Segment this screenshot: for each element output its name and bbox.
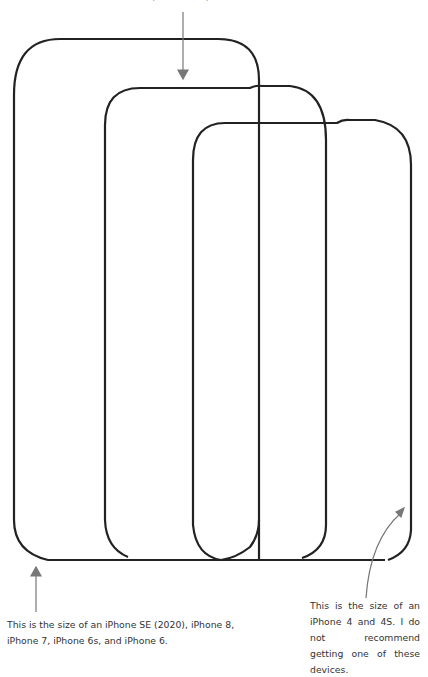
top-arrow-head: [178, 70, 188, 79]
caption-iphone-se: This is the size of an iPhone SE (2020),…: [7, 617, 247, 649]
caption-iphone-4: This is the size of an iPhone 4 and 4S. …: [310, 598, 420, 677]
large-phone-outline: [14, 39, 385, 560]
right-arrow-head: [396, 508, 404, 517]
medium-phone-outline: [105, 86, 326, 558]
small-phone-outline: [193, 120, 411, 560]
left-arrow-head: [31, 567, 41, 576]
